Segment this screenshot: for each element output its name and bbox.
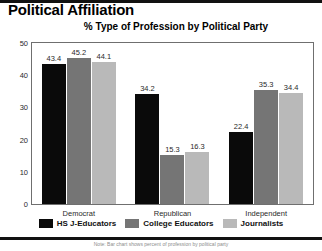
bar-value-label: 35.3: [259, 80, 274, 89]
bar-value-label: 15.3: [165, 145, 180, 154]
bar-group: 43.445.244.1Democrat: [32, 43, 126, 204]
bar-value-label: 34.2: [140, 84, 155, 93]
bar: 34.4: [279, 93, 303, 204]
bar-value-label: 22.4: [234, 122, 249, 131]
bar-group: 22.435.334.4Independent: [219, 43, 313, 204]
chart-legend: HS J-EducatorsCollege EducatorsJournalis…: [0, 219, 322, 228]
x-axis-category-label: Independent: [245, 209, 287, 218]
bar-value-label: 45.2: [72, 48, 87, 57]
legend-label: HS J-Educators: [57, 219, 117, 228]
bar: 16.3: [185, 152, 209, 204]
legend-swatch: [223, 219, 237, 228]
chart-figure: Political Affiliation % Type of Professi…: [0, 0, 322, 251]
plot-inner: 0102030405043.445.244.1Democrat34.215.31…: [32, 43, 313, 204]
y-axis-tick-label: 10: [20, 167, 28, 176]
y-axis-tick-label: 0: [24, 200, 28, 209]
x-axis-category-label: Republican: [154, 209, 192, 218]
bar-value-label: 16.3: [190, 142, 205, 151]
bottom-border: [0, 237, 322, 240]
bar: 43.4: [42, 64, 66, 204]
y-axis-tick-label: 40: [20, 71, 28, 80]
bar: 35.3: [254, 90, 278, 204]
y-axis-tick-label: 50: [20, 39, 28, 48]
legend-item[interactable]: College Educators: [125, 219, 213, 228]
chart-title: Political Affiliation: [8, 1, 134, 18]
bar: 22.4: [229, 132, 253, 204]
legend-item[interactable]: Journalists: [223, 219, 284, 228]
bar: 45.2: [67, 58, 91, 204]
legend-swatch: [125, 219, 139, 228]
chart-footnote: Note: Bar chart shows percent of profess…: [0, 241, 322, 251]
plot-area: 0102030405043.445.244.1Democrat34.215.31…: [31, 42, 314, 205]
legend-label: Journalists: [241, 219, 284, 228]
legend-item[interactable]: HS J-Educators: [39, 219, 117, 228]
bar: 15.3: [160, 155, 184, 204]
bar: 34.2: [135, 94, 159, 204]
x-axis-category-label: Democrat: [63, 209, 96, 218]
bar-group: 34.215.316.3Republican: [126, 43, 220, 204]
y-axis-tick-label: 20: [20, 135, 28, 144]
legend-label: College Educators: [143, 219, 213, 228]
bar-value-label: 44.1: [97, 52, 112, 61]
y-axis-tick-label: 30: [20, 103, 28, 112]
bar-value-label: 34.4: [284, 83, 299, 92]
chart-subtitle: % Type of Profession by Political Party: [0, 21, 322, 32]
legend-swatch: [39, 219, 53, 228]
bar-value-label: 43.4: [47, 54, 62, 63]
bar: 44.1: [92, 62, 116, 204]
